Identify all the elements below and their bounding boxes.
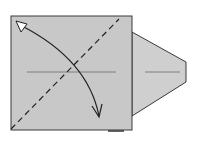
origami-diagram (0, 0, 204, 146)
trapezoid-point (132, 32, 186, 116)
square-flap (11, 16, 132, 130)
